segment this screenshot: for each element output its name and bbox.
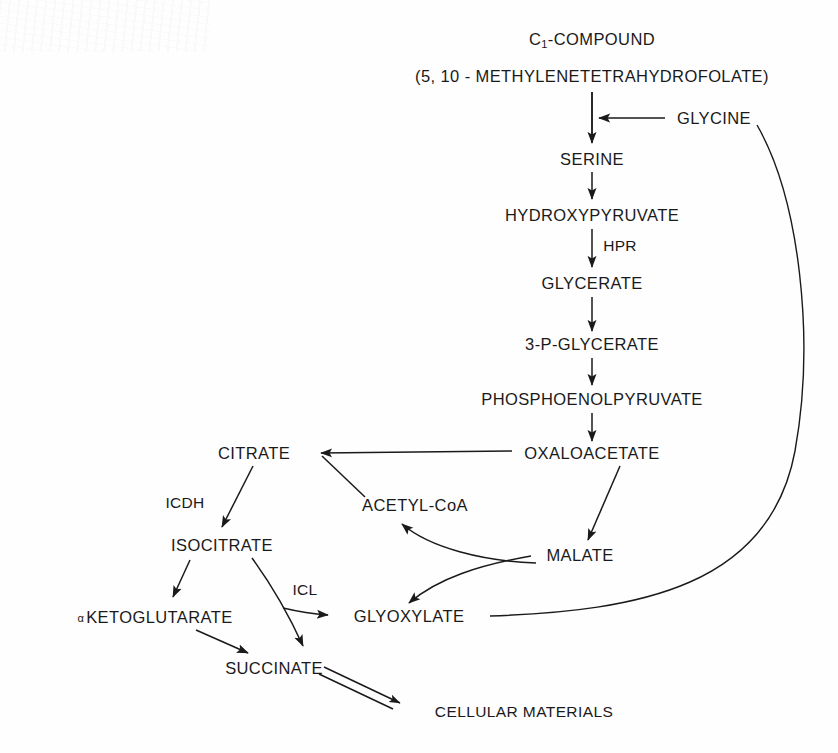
enzyme-icl: ICL bbox=[292, 582, 317, 598]
node-serine: SERINE bbox=[560, 151, 624, 168]
node-3-p-glycerate: 3-P-GLYCERATE bbox=[525, 336, 659, 353]
node-c1-compound: C1-COMPOUND bbox=[529, 31, 655, 50]
edge-acetylcoa-to-citrate bbox=[322, 456, 365, 497]
edge-isocitrate-to-ketoglutarate bbox=[173, 560, 190, 597]
node-succinate: SUCCINATE bbox=[225, 660, 323, 677]
edge-oxaloacetate-to-citrate bbox=[321, 451, 512, 453]
node-malate: MALATE bbox=[546, 547, 613, 564]
edge-succinate-to-cellular-1 bbox=[319, 674, 393, 709]
edge-isocitrate-to-glyoxylate bbox=[283, 608, 328, 615]
node-glycine: GLYCINE bbox=[677, 110, 751, 127]
node-glycerate: GLYCERATE bbox=[541, 275, 642, 292]
edge-malate-to-glyoxylate bbox=[409, 556, 531, 603]
alpha-symbol: α bbox=[77, 612, 86, 624]
enzyme-hpr: HPR bbox=[603, 238, 637, 254]
node-cellular-materials: CELLULAR MATERIALS bbox=[435, 704, 613, 720]
node-alpha-ketoglutarate: αKETOGLUTARATE bbox=[77, 609, 232, 626]
pathway-diagram: C1-COMPOUND (5, 10 - METHYLENETETRAHYDRO… bbox=[0, 0, 838, 753]
edge-ketoglutarate-to-succinate bbox=[196, 630, 248, 653]
node-glyoxylate: GLYOXYLATE bbox=[354, 608, 465, 625]
edge-oxaloacetate-to-malate bbox=[588, 466, 620, 540]
edge-glyoxylate-to-glycine bbox=[490, 125, 804, 616]
edge-isocitrate-to-succinate bbox=[252, 558, 303, 646]
edge-succinate-to-cellular-2 bbox=[324, 667, 400, 703]
edge-citrate-to-isocitrate bbox=[222, 466, 253, 527]
enzyme-icdh: ICDH bbox=[165, 495, 204, 511]
node-hydroxypyruvate: HYDROXYPYRUVATE bbox=[505, 207, 679, 224]
node-methylenetetrahydrofolate: (5, 10 - METHYLENETETRAHYDROFOLATE) bbox=[415, 68, 769, 85]
edge-glyoxylate-to-acetylcoa bbox=[402, 524, 536, 563]
node-oxaloacetate: OXALOACETATE bbox=[524, 445, 659, 462]
node-citrate: CITRATE bbox=[218, 445, 290, 462]
node-acetyl-coa: ACETYL-CoA bbox=[362, 497, 468, 514]
node-phosphoenolpyruvate: PHOSPHOENOLPYRUVATE bbox=[481, 391, 703, 408]
node-isocitrate: ISOCITRATE bbox=[171, 537, 273, 554]
